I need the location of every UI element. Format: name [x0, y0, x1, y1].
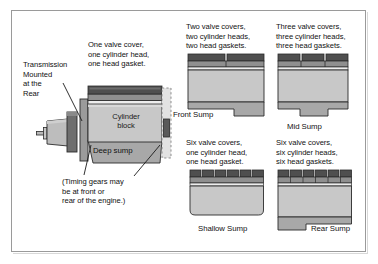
label-mid-sump: Mid Sump	[287, 122, 322, 131]
cylinder-block-icon	[188, 70, 264, 102]
mid-sump-pan-icon	[278, 102, 348, 116]
cylinder-block-icon	[190, 186, 264, 215]
label-cylinder-block: Cylinder block	[97, 112, 155, 130]
cylinder-heads-icon	[188, 61, 264, 67]
cylinder-head-icon	[190, 177, 264, 183]
label-rear-sump: Rear Sump	[311, 224, 350, 233]
engine-configuration-figure: Transmission Mounted at the Rear One val…	[0, 0, 378, 264]
cylinder-heads-icon	[278, 61, 348, 67]
valve-covers-icon	[278, 170, 352, 177]
label-front-sump: Front Sump	[173, 110, 213, 119]
valve-covers-icon	[278, 54, 348, 61]
caption-shallow-sump: Six valve covers, one cylinder head, one…	[186, 138, 247, 167]
label-deep-sump: Deep sump	[93, 146, 132, 155]
note-timing-gears: (Timing gears may be at front or rear of…	[62, 177, 125, 206]
cylinder-block-icon	[278, 70, 348, 102]
shallow-sump-diagram	[188, 169, 270, 225]
mid-sump-diagram	[276, 53, 358, 121]
rear-sump-diagram	[276, 169, 360, 231]
caption-one-valve-cover: One valve cover, one cylinder head, one …	[88, 40, 149, 69]
label-shallow-sump: Shallow Sump	[198, 224, 247, 233]
cylinder-heads-icon	[278, 177, 352, 183]
caption-rear-sump: Six valve covers, six cylinder heads, si…	[276, 138, 338, 167]
callout-transmission-mounted-rear: Transmission Mounted at the Rear	[23, 60, 67, 98]
valve-covers-icon	[190, 170, 264, 177]
valve-covers-icon	[188, 54, 264, 61]
caption-mid-sump: Three valve covers, three cylinder heads…	[276, 22, 345, 51]
cylinder-block-icon	[278, 186, 352, 217]
caption-front-sump: Two valve covers, two cylinder heads, tw…	[186, 22, 250, 51]
